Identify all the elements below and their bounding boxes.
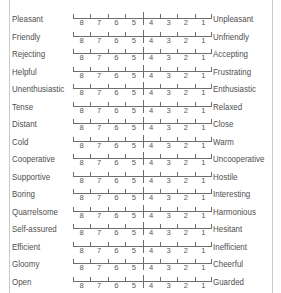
scale-point-7[interactable]: 7 bbox=[92, 246, 106, 256]
scale-point-2[interactable]: 2 bbox=[179, 18, 193, 28]
scale-point-3[interactable]: 3 bbox=[162, 176, 176, 186]
scale-point-1[interactable]: 1 bbox=[196, 18, 210, 28]
scale-point-7[interactable]: 7 bbox=[92, 176, 106, 186]
scale-point-8[interactable]: 8 bbox=[75, 211, 89, 221]
scale-point-8[interactable]: 8 bbox=[75, 18, 89, 28]
scale-point-1[interactable]: 1 bbox=[196, 123, 210, 133]
scale-point-8[interactable]: 8 bbox=[75, 141, 89, 151]
scale-point-4[interactable]: 4 bbox=[144, 246, 158, 256]
scale-point-3[interactable]: 3 bbox=[162, 106, 176, 116]
scale-point-6[interactable]: 6 bbox=[109, 193, 123, 203]
scale-point-2[interactable]: 2 bbox=[179, 141, 193, 151]
scale-point-3[interactable]: 3 bbox=[162, 53, 176, 63]
rating-scale[interactable]: 87654321 bbox=[73, 169, 212, 187]
scale-point-6[interactable]: 6 bbox=[109, 281, 123, 291]
scale-point-6[interactable]: 6 bbox=[109, 211, 123, 221]
scale-point-1[interactable]: 1 bbox=[196, 193, 210, 203]
scale-point-2[interactable]: 2 bbox=[179, 211, 193, 221]
scale-point-2[interactable]: 2 bbox=[179, 71, 193, 81]
scale-point-2[interactable]: 2 bbox=[179, 158, 193, 168]
scale-point-5[interactable]: 5 bbox=[127, 36, 141, 46]
rating-scale[interactable]: 87654321 bbox=[73, 186, 212, 204]
scale-point-2[interactable]: 2 bbox=[179, 193, 193, 203]
scale-point-1[interactable]: 1 bbox=[196, 263, 210, 273]
scale-point-4[interactable]: 4 bbox=[144, 71, 158, 81]
rating-scale[interactable]: 87654321 bbox=[73, 99, 212, 117]
scale-point-7[interactable]: 7 bbox=[92, 158, 106, 168]
scale-point-1[interactable]: 1 bbox=[196, 246, 210, 256]
scale-point-1[interactable]: 1 bbox=[196, 281, 210, 291]
scale-point-7[interactable]: 7 bbox=[92, 141, 106, 151]
scale-point-4[interactable]: 4 bbox=[144, 228, 158, 238]
rating-scale[interactable]: 87654321 bbox=[73, 274, 212, 292]
scale-point-7[interactable]: 7 bbox=[92, 123, 106, 133]
scale-point-6[interactable]: 6 bbox=[109, 158, 123, 168]
scale-point-1[interactable]: 1 bbox=[196, 141, 210, 151]
rating-scale[interactable]: 87654321 bbox=[73, 81, 212, 99]
scale-point-4[interactable]: 4 bbox=[144, 36, 158, 46]
scale-point-5[interactable]: 5 bbox=[127, 106, 141, 116]
scale-point-7[interactable]: 7 bbox=[92, 106, 106, 116]
scale-point-5[interactable]: 5 bbox=[127, 193, 141, 203]
scale-point-5[interactable]: 5 bbox=[127, 176, 141, 186]
scale-point-2[interactable]: 2 bbox=[179, 228, 193, 238]
scale-point-1[interactable]: 1 bbox=[196, 176, 210, 186]
scale-point-8[interactable]: 8 bbox=[75, 88, 89, 98]
scale-point-7[interactable]: 7 bbox=[92, 228, 106, 238]
rating-scale[interactable]: 87654321 bbox=[73, 151, 212, 169]
scale-point-4[interactable]: 4 bbox=[144, 123, 158, 133]
scale-point-2[interactable]: 2 bbox=[179, 53, 193, 63]
rating-scale[interactable]: 87654321 bbox=[73, 239, 212, 257]
scale-point-7[interactable]: 7 bbox=[92, 36, 106, 46]
scale-point-5[interactable]: 5 bbox=[127, 246, 141, 256]
scale-point-4[interactable]: 4 bbox=[144, 263, 158, 273]
scale-point-8[interactable]: 8 bbox=[75, 193, 89, 203]
scale-point-4[interactable]: 4 bbox=[144, 281, 158, 291]
scale-point-2[interactable]: 2 bbox=[179, 36, 193, 46]
scale-point-7[interactable]: 7 bbox=[92, 193, 106, 203]
scale-point-8[interactable]: 8 bbox=[75, 36, 89, 46]
rating-scale[interactable]: 87654321 bbox=[73, 29, 212, 47]
scale-point-4[interactable]: 4 bbox=[144, 158, 158, 168]
scale-point-3[interactable]: 3 bbox=[162, 36, 176, 46]
scale-point-6[interactable]: 6 bbox=[109, 141, 123, 151]
scale-point-5[interactable]: 5 bbox=[127, 228, 141, 238]
scale-point-7[interactable]: 7 bbox=[92, 18, 106, 28]
scale-point-3[interactable]: 3 bbox=[162, 263, 176, 273]
scale-point-2[interactable]: 2 bbox=[179, 281, 193, 291]
scale-point-8[interactable]: 8 bbox=[75, 281, 89, 291]
scale-point-8[interactable]: 8 bbox=[75, 71, 89, 81]
scale-point-8[interactable]: 8 bbox=[75, 246, 89, 256]
scale-point-4[interactable]: 4 bbox=[144, 53, 158, 63]
scale-point-5[interactable]: 5 bbox=[127, 71, 141, 81]
scale-point-7[interactable]: 7 bbox=[92, 211, 106, 221]
scale-point-7[interactable]: 7 bbox=[92, 263, 106, 273]
scale-point-8[interactable]: 8 bbox=[75, 106, 89, 116]
scale-point-2[interactable]: 2 bbox=[179, 176, 193, 186]
scale-point-6[interactable]: 6 bbox=[109, 176, 123, 186]
scale-point-6[interactable]: 6 bbox=[109, 246, 123, 256]
rating-scale[interactable]: 87654321 bbox=[73, 256, 212, 274]
rating-scale[interactable]: 87654321 bbox=[73, 134, 212, 152]
scale-point-1[interactable]: 1 bbox=[196, 53, 210, 63]
scale-point-4[interactable]: 4 bbox=[144, 176, 158, 186]
scale-point-2[interactable]: 2 bbox=[179, 263, 193, 273]
rating-scale[interactable]: 87654321 bbox=[73, 204, 212, 222]
scale-point-4[interactable]: 4 bbox=[144, 88, 158, 98]
scale-point-6[interactable]: 6 bbox=[109, 228, 123, 238]
scale-point-3[interactable]: 3 bbox=[162, 246, 176, 256]
scale-point-2[interactable]: 2 bbox=[179, 106, 193, 116]
scale-point-1[interactable]: 1 bbox=[196, 158, 210, 168]
scale-point-3[interactable]: 3 bbox=[162, 158, 176, 168]
scale-point-4[interactable]: 4 bbox=[144, 141, 158, 151]
scale-point-6[interactable]: 6 bbox=[109, 88, 123, 98]
scale-point-5[interactable]: 5 bbox=[127, 18, 141, 28]
rating-scale[interactable]: 87654321 bbox=[73, 46, 212, 64]
scale-point-7[interactable]: 7 bbox=[92, 88, 106, 98]
scale-point-5[interactable]: 5 bbox=[127, 123, 141, 133]
scale-point-3[interactable]: 3 bbox=[162, 193, 176, 203]
scale-point-8[interactable]: 8 bbox=[75, 228, 89, 238]
scale-point-3[interactable]: 3 bbox=[162, 123, 176, 133]
scale-point-3[interactable]: 3 bbox=[162, 228, 176, 238]
scale-point-7[interactable]: 7 bbox=[92, 53, 106, 63]
